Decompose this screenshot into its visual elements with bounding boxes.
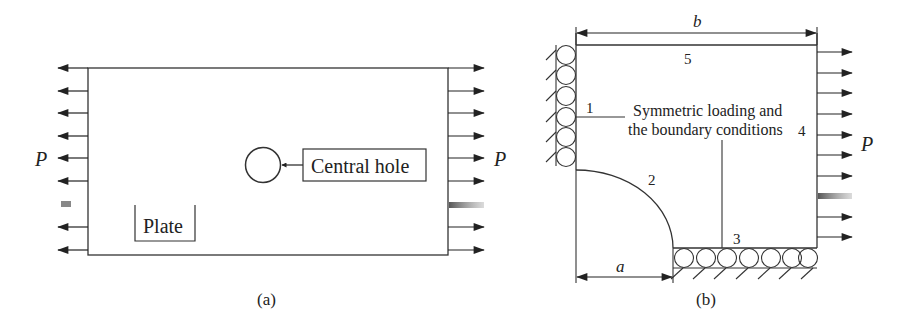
faded-arrow-left: [61, 201, 71, 207]
load-label-right: P: [493, 148, 506, 170]
figure-canvas: P P Central hole Plate (a) b: [0, 0, 910, 330]
dim-a-label: a: [616, 257, 625, 276]
dim-b-label: b: [693, 12, 702, 31]
annotation-line-2: the boundary conditions: [628, 121, 783, 139]
left-load-arrows: [58, 68, 88, 250]
load-label-left: P: [34, 148, 47, 170]
faded-arrow-right: [449, 202, 484, 208]
annotation-line-1: Symmetric loading and: [633, 102, 782, 120]
load-label-b: P: [860, 133, 873, 155]
edge-label-2: 2: [648, 172, 656, 188]
figure-a: P P Central hole Plate (a): [34, 68, 506, 309]
caption-b: (b): [696, 290, 716, 309]
bottom-roller-support: [671, 249, 818, 280]
left-roller-support: [546, 45, 576, 167]
edge-2-hole-arc: [576, 170, 673, 248]
edge-label-5: 5: [684, 51, 692, 67]
caption-a: (a): [257, 290, 276, 309]
right-load-arrows-b: [817, 52, 852, 237]
right-load-arrows: [448, 68, 484, 250]
edge-label-3: 3: [733, 231, 741, 247]
central-hole: [246, 148, 281, 183]
figure-b: b: [546, 12, 873, 309]
edge-label-4: 4: [798, 123, 806, 139]
hole-label: Central hole: [311, 155, 409, 177]
edge-label-1: 1: [586, 100, 594, 116]
plate-label: Plate: [143, 215, 183, 237]
faded-arrow-b: [818, 193, 852, 199]
